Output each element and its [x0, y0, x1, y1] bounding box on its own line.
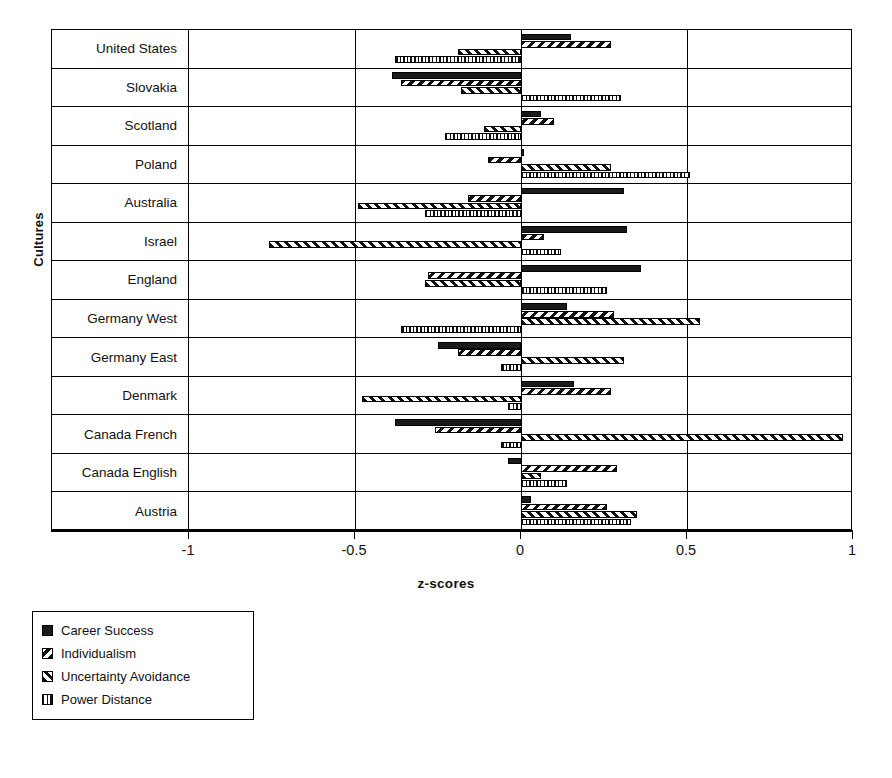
plot-area: United StatesSlovakiaScotlandPolandAustr… — [51, 29, 852, 530]
bar-uncertainty-avoidance — [362, 396, 521, 403]
bar-career-success — [521, 303, 567, 310]
bar-uncertainty-avoidance — [269, 241, 521, 248]
bar-career-success — [521, 188, 624, 195]
row-bars — [189, 69, 851, 107]
y-axis-title: Cultures — [31, 180, 46, 300]
row-bars — [189, 454, 851, 492]
legend-swatch-uncertainty-avoidance-icon — [42, 671, 53, 682]
bar-career-success — [521, 381, 574, 388]
category-label: Austria — [52, 492, 183, 531]
chart-row: Slovakia — [52, 69, 851, 108]
bar-individualism — [521, 118, 554, 125]
bar-power-distance — [521, 249, 561, 256]
legend-swatch-power-distance-icon — [42, 694, 53, 705]
bar-power-distance — [521, 480, 567, 487]
bar-career-success — [521, 265, 641, 272]
bar-power-distance — [501, 442, 521, 449]
row-bars — [189, 338, 851, 376]
bar-career-success — [521, 149, 524, 156]
category-label: Slovakia — [52, 69, 183, 107]
row-bars — [189, 492, 851, 531]
bar-career-success — [521, 226, 627, 233]
legend-label: Individualism — [61, 646, 136, 661]
bar-uncertainty-avoidance — [521, 164, 611, 171]
bar-uncertainty-avoidance — [484, 126, 521, 133]
plot-rows: United StatesSlovakiaScotlandPolandAustr… — [52, 30, 851, 529]
bar-career-success — [521, 111, 541, 118]
x-tick — [354, 530, 355, 539]
legend-item: Power Distance — [42, 688, 244, 711]
x-tick-label: 0.5 — [656, 542, 716, 558]
row-bars — [189, 30, 851, 68]
legend-swatch-career-success-icon — [42, 625, 53, 636]
bar-power-distance — [401, 326, 521, 333]
bar-power-distance — [521, 287, 607, 294]
bar-individualism — [521, 388, 611, 395]
bar-individualism — [458, 349, 521, 356]
legend-swatch-individualism-icon — [42, 648, 53, 659]
bar-uncertainty-avoidance — [521, 473, 541, 480]
bar-power-distance — [395, 56, 521, 63]
chart-row: Denmark — [52, 377, 851, 416]
row-bars — [189, 223, 851, 261]
bar-individualism — [521, 465, 617, 472]
chart-row: England — [52, 261, 851, 300]
row-bars — [189, 146, 851, 184]
row-bars — [189, 261, 851, 299]
bar-power-distance — [425, 210, 521, 217]
chart-row: Israel — [52, 223, 851, 262]
chart-row: Germany West — [52, 300, 851, 339]
x-axis-title: z-scores — [0, 576, 892, 591]
bar-individualism — [488, 157, 521, 164]
legend: Career Success Individualism Uncertainty… — [32, 611, 254, 720]
legend-item: Uncertainty Avoidance — [42, 665, 244, 688]
bar-career-success — [521, 34, 571, 41]
bar-career-success — [395, 419, 521, 426]
chart-row: Germany East — [52, 338, 851, 377]
bar-uncertainty-avoidance — [521, 434, 843, 441]
bar-power-distance — [445, 133, 521, 140]
bar-uncertainty-avoidance — [425, 280, 521, 287]
x-tick — [188, 530, 189, 539]
bar-uncertainty-avoidance — [461, 87, 521, 94]
bar-individualism — [521, 311, 614, 318]
x-tick-label: -0.5 — [324, 542, 384, 558]
x-tick — [852, 530, 853, 539]
chart-row: Canada English — [52, 454, 851, 493]
bar-power-distance — [521, 95, 621, 102]
bar-power-distance — [521, 172, 690, 179]
bar-individualism — [521, 504, 607, 511]
category-label: Canada French — [52, 415, 183, 453]
category-label: Germany East — [52, 338, 183, 376]
bar-individualism — [521, 234, 544, 241]
legend-label: Uncertainty Avoidance — [61, 669, 190, 684]
category-label: England — [52, 261, 183, 299]
category-label: Australia — [52, 184, 183, 222]
x-tick — [686, 530, 687, 539]
row-bars — [189, 184, 851, 222]
legend-item: Career Success — [42, 619, 244, 642]
chart-row: Poland — [52, 146, 851, 185]
chart-row: United States — [52, 30, 851, 69]
category-label: Canada English — [52, 454, 183, 492]
bar-career-success — [508, 458, 521, 465]
bar-career-success — [438, 342, 521, 349]
row-bars — [189, 107, 851, 145]
x-axis-line — [51, 530, 852, 532]
bar-individualism — [428, 272, 521, 279]
bar-uncertainty-avoidance — [458, 49, 521, 56]
row-bars — [189, 377, 851, 415]
category-label: Denmark — [52, 377, 183, 415]
chart-page: Cultures United StatesSlovakiaScotlandPo… — [0, 0, 892, 778]
bar-power-distance — [508, 403, 521, 410]
bar-individualism — [435, 427, 521, 434]
chart-row: Scotland — [52, 107, 851, 146]
category-label: Israel — [52, 223, 183, 261]
chart-row: Australia — [52, 184, 851, 223]
x-tick-label: 1 — [822, 542, 882, 558]
bar-individualism — [521, 41, 611, 48]
category-label: United States — [52, 30, 183, 68]
legend-item: Individualism — [42, 642, 244, 665]
category-label: Poland — [52, 146, 183, 184]
chart-row: Canada French — [52, 415, 851, 454]
